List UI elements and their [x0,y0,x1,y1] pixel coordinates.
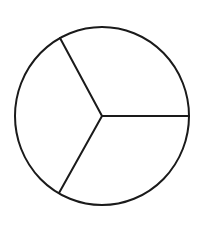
diagram-canvas [0,0,203,227]
spoke-upper-left [60,38,102,116]
spoke-lower-left [59,116,102,193]
divided-circle-figure [0,0,203,227]
